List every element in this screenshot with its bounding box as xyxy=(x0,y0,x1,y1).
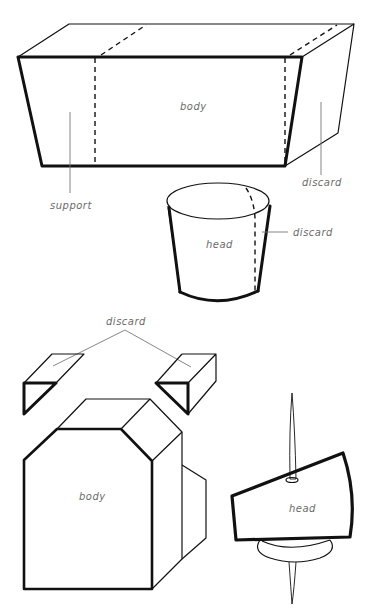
cup-discard-label: discard xyxy=(293,227,333,238)
body-block-label: body xyxy=(79,491,106,502)
head-block-label: head xyxy=(289,503,316,514)
bottom-discard-label: discard xyxy=(106,316,146,327)
cup-head-label: head xyxy=(206,239,233,250)
box-discard-label: discard xyxy=(302,177,342,188)
diagram-canvas: body support discard head discard discar… xyxy=(0,0,377,612)
head-block xyxy=(232,393,352,604)
body-block xyxy=(24,399,206,589)
wedge-left xyxy=(24,354,84,414)
wedge-right xyxy=(156,354,216,414)
box-support-label: support xyxy=(50,200,92,211)
box-body-label: body xyxy=(180,101,207,112)
